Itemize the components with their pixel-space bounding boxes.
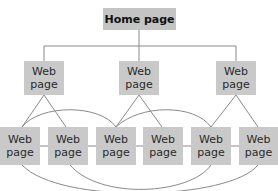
web-page-label: Web page [125,65,152,91]
web-page-label: Web page [222,65,249,91]
home-page-label: Home page [104,13,174,26]
web-page-box-l2-3: Web page [216,61,256,95]
web-page-label: Web page [6,133,33,159]
web-page-box-l3-3: Web page [96,127,136,165]
web-page-label: Web page [149,133,176,159]
web-page-box-l3-1: Web page [0,127,40,165]
web-page-label: Web page [54,133,81,159]
web-page-box-l2-2: Web page [119,61,159,95]
web-page-box-l3-2: Web page [48,127,88,165]
home-page-box: Home page [103,8,176,30]
web-page-label: Web page [197,133,224,159]
web-page-label: Web page [245,133,272,159]
web-page-box-l3-4: Web page [143,127,183,165]
web-page-label: Web page [30,65,57,91]
web-page-box-l3-6: Web page [239,127,278,165]
web-page-box-l2-1: Web page [24,61,64,95]
web-page-label: Web page [102,133,129,159]
web-page-box-l3-5: Web page [191,127,231,165]
